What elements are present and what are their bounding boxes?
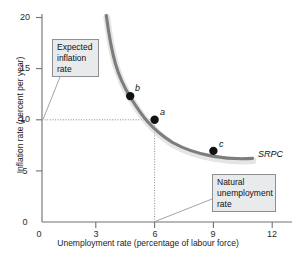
callout-natural-line1: Natural (217, 177, 272, 188)
x-axis-ticks (96, 222, 272, 228)
srpc-curve-label: SRPC (258, 150, 283, 159)
data-point-b (126, 92, 134, 100)
callout-expected-line3: rate (57, 64, 95, 75)
reference-lines (42, 120, 155, 222)
chart-canvas (0, 0, 296, 254)
data-point-label-c: c (219, 140, 224, 149)
natural-unemployment-rate-callout: Natural unemployment rate (212, 174, 276, 212)
data-point-a (150, 116, 158, 124)
expected-inflation-leader (43, 77, 60, 120)
callout-natural-line3: rate (217, 199, 272, 210)
callout-expected-line2: inflation (57, 53, 95, 64)
x-axis-title: Unemployment rate (percentage of labour … (0, 238, 296, 248)
callout-expected-line1: Expected (57, 42, 95, 53)
expected-inflation-rate-callout: Expected inflation rate (52, 39, 99, 77)
phillips-curve-chart: 20 15 10 5 0 0 3 6 9 12 Unemployment rat… (0, 0, 296, 254)
natural-unemployment-leader (155, 199, 212, 222)
srpc-curve (106, 16, 252, 159)
callout-natural-line2: unemployment (217, 188, 272, 199)
y-axis-ticks (36, 18, 42, 171)
data-point-label-b: b (135, 84, 140, 93)
y-axis-title: Inflation rate (percent per year) (15, 5, 25, 225)
data-point-label-a: a (160, 108, 165, 117)
srpc-curve-shadow (107, 17, 253, 161)
data-point-c (209, 147, 217, 155)
